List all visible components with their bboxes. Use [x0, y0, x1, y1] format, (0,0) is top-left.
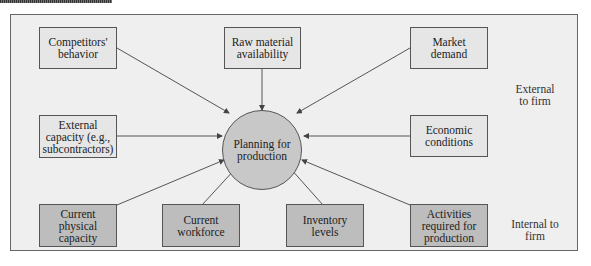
factor-competitors-behavior: Competitors' behavior	[39, 27, 117, 69]
factor-market-demand: Market demand	[410, 27, 488, 69]
zone-label-external: External to firm	[500, 83, 570, 107]
arrow-activities	[302, 160, 410, 205]
factor-current-physical-capacity: Current physical capacity	[39, 204, 117, 247]
factor-activities-required: Activities required for production	[410, 204, 488, 247]
factor-current-workforce: Current workforce	[162, 204, 240, 247]
factor-external-capacity: External capacity (e.g., subcontractors)	[39, 115, 117, 158]
arrow-market-demand	[297, 48, 410, 113]
arrow-competitors	[117, 48, 229, 113]
zone-label-internal: Internal to firm	[500, 218, 570, 242]
arrow-inventory	[290, 168, 323, 205]
factor-economic-conditions: Economic conditions	[410, 115, 488, 157]
factor-inventory-levels: Inventory levels	[286, 204, 364, 247]
center-planning-for-production: Planning for production	[222, 110, 302, 190]
factor-raw-material-availability: Raw material availability	[224, 27, 301, 69]
